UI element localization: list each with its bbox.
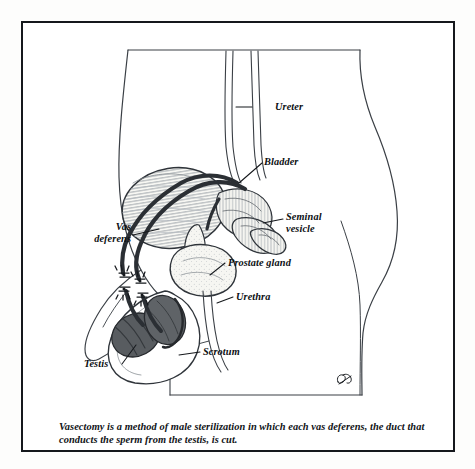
- label-urethra: Urethra: [236, 291, 270, 303]
- label-seminal-vesicle: Seminal vesicle: [286, 211, 322, 234]
- figure-page: Ureter Bladder Seminal vesicle Vas defer…: [0, 0, 475, 469]
- label-ureter: Ureter: [275, 101, 303, 113]
- label-vas-deferens: Vas deferens: [47, 221, 131, 244]
- label-vas-deferens-line2: deferens: [47, 233, 131, 245]
- label-seminal-vesicle-line2: vesicle: [286, 223, 322, 235]
- label-scrotum: Scrotum: [203, 346, 240, 358]
- figure-caption: Vasectomy is a method of male sterilizat…: [59, 420, 457, 447]
- artist-signature-icon: [337, 374, 351, 384]
- label-vas-deferens-line1: Vas: [47, 221, 131, 233]
- label-prostate-gland: Prostate gland: [228, 257, 291, 269]
- label-seminal-vesicle-line1: Seminal: [286, 211, 322, 223]
- label-testis: Testis: [84, 358, 108, 370]
- label-bladder: Bladder: [264, 156, 298, 168]
- figure-frame: Ureter Bladder Seminal vesicle Vas defer…: [21, 21, 455, 452]
